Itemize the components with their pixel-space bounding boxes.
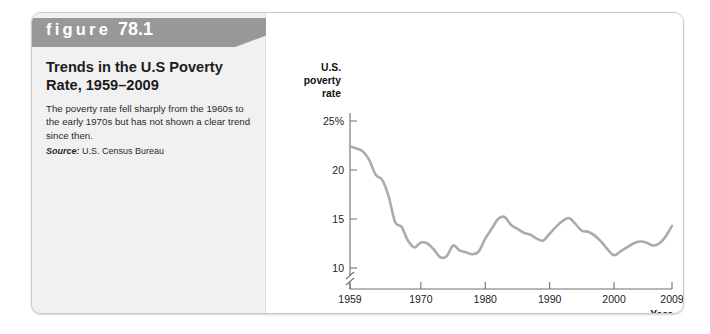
figure-description: The poverty rate fell sharply from the 1… bbox=[46, 102, 256, 142]
figure-banner-label: figure bbox=[46, 20, 111, 38]
figure-info-panel bbox=[32, 13, 266, 313]
x-tick-label: 2009 bbox=[660, 293, 684, 305]
y-axis-ticks: 10152025% bbox=[323, 115, 357, 274]
y-tick-label: 15 bbox=[332, 213, 344, 225]
figure-title: Trends in the U.S Poverty Rate, 1959–200… bbox=[46, 59, 254, 95]
x-tick-label: 1990 bbox=[538, 293, 562, 305]
y-axis-title-line: poverty bbox=[304, 75, 341, 86]
poverty-rate-line-chart: 10152025% 195919701980199020002009 U.S.p… bbox=[266, 13, 684, 314]
poverty-rate-line bbox=[350, 146, 672, 257]
x-tick-label: 2000 bbox=[602, 293, 626, 305]
axis-lines bbox=[346, 113, 672, 289]
figure-banner-number: 78.1 bbox=[118, 19, 153, 39]
x-axis-ticks: 195919701980199020002009 bbox=[338, 282, 684, 305]
x-tick-label: 1980 bbox=[474, 293, 498, 305]
y-tick-label: 10 bbox=[332, 262, 344, 274]
figure-card: figure78.1 Trends in the U.S Poverty Rat… bbox=[31, 12, 684, 314]
figure-source-label: Source: bbox=[46, 146, 80, 156]
x-tick-label: 1970 bbox=[409, 293, 433, 305]
figure-source-value: U.S. Census Bureau bbox=[82, 146, 164, 156]
figure-source: Source: U.S. Census Bureau bbox=[46, 146, 256, 156]
x-axis-title: Year bbox=[650, 309, 672, 314]
figure-banner-text: figure78.1 bbox=[46, 19, 153, 40]
y-axis-title-line: U.S. bbox=[321, 62, 341, 73]
y-axis-title-line: rate bbox=[322, 88, 341, 99]
chart-area: 10152025% 195919701980199020002009 U.S.p… bbox=[266, 13, 683, 313]
axis-titles: U.S.povertyrateYear bbox=[304, 62, 672, 314]
x-tick-label: 1959 bbox=[338, 293, 362, 305]
series-group bbox=[350, 146, 672, 257]
y-tick-label: 25% bbox=[323, 115, 344, 127]
y-tick-label: 20 bbox=[332, 164, 344, 176]
